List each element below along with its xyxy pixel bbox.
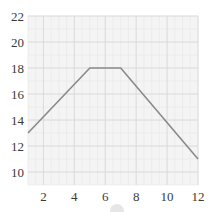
x-tick-label: 10 (161, 189, 174, 204)
y-tick-label: 20 (11, 35, 24, 50)
x-axis-tick-labels: 24681012 (40, 189, 204, 204)
x-tick-label: 4 (71, 189, 78, 204)
line-chart: 10121416182022 24681012 (0, 0, 216, 212)
y-tick-label: 14 (11, 113, 25, 128)
y-tick-label: 10 (11, 165, 24, 180)
x-tick-label: 2 (40, 189, 47, 204)
x-tick-label: 6 (102, 189, 109, 204)
y-tick-label: 22 (11, 9, 24, 24)
y-tick-label: 18 (11, 61, 24, 76)
x-tick-label: 8 (133, 189, 140, 204)
x-tick-label: 12 (192, 189, 205, 204)
y-tick-label: 16 (11, 87, 25, 102)
y-axis-tick-labels: 10121416182022 (11, 9, 25, 180)
y-tick-label: 12 (11, 139, 24, 154)
scroll-indicator-dot (110, 204, 124, 212)
